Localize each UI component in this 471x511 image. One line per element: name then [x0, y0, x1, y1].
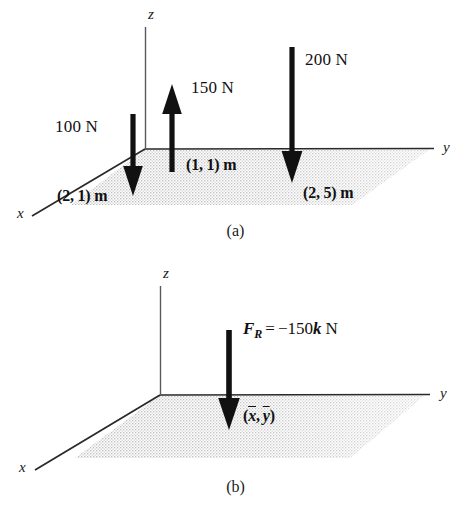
panel-b-caption: (b)	[0, 478, 471, 496]
y-bar: y	[263, 407, 270, 424]
z-axis-label-a: z	[148, 6, 154, 23]
panel-a-caption: (a)	[0, 222, 471, 240]
force-label-100n: 100 N	[55, 117, 98, 137]
position-comma: ,	[256, 407, 260, 424]
x-axis-label-b: x	[19, 459, 26, 476]
position-label-2-1: (2, 1) m	[57, 187, 107, 205]
position-label-2-5: (2, 5) m	[303, 184, 353, 202]
figure-root: z y x 100 N 150 N 200 N (2, 1) m (1, 1) …	[0, 0, 471, 511]
resultant-force-label: FR=−150kN	[243, 319, 338, 342]
resultant-symbol: F	[243, 319, 254, 338]
y-axis-line-b	[160, 395, 430, 396]
panel-a: z y x 100 N 150 N 200 N (2, 1) m (1, 1) …	[0, 0, 471, 255]
resultant-unit-vector: k	[313, 319, 322, 338]
x-bar: x	[248, 407, 256, 424]
resultant-subscript: R	[254, 327, 262, 341]
y-axis-label-a: y	[443, 139, 450, 156]
force-label-150n: 150 N	[191, 78, 234, 98]
xy-plane-shading-a	[71, 149, 430, 205]
resultant-unit: N	[326, 319, 338, 338]
force-label-200n: 200 N	[305, 50, 348, 70]
resultant-equals: =	[265, 319, 275, 338]
y-axis-label-b: y	[440, 385, 447, 402]
x-axis-label-a: x	[17, 205, 24, 222]
resultant-position-label: (x,y)	[243, 407, 275, 425]
z-axis-label-b: z	[163, 265, 169, 282]
panel-b: z y x FR=−150kN (x,y) (b)	[0, 252, 471, 511]
position-label-1-1: (1, 1) m	[186, 156, 236, 174]
paren-close: )	[270, 407, 275, 424]
xy-plane-shading-b	[75, 395, 425, 458]
resultant-value: −150	[278, 319, 313, 338]
panel-b-diagram	[0, 252, 471, 511]
